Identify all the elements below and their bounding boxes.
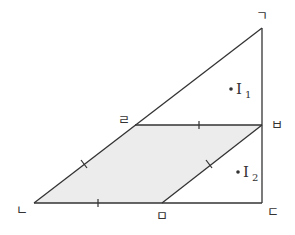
incenter-label-i2: I xyxy=(243,163,249,181)
incenter-sub-i1: 1 xyxy=(245,89,251,100)
geometry-diagram: ㄱ ㄴ ㄷ ㄹ ㅁ ㅂ I 1 I 2 xyxy=(0,0,295,235)
vertex-label-m: ㅁ xyxy=(156,208,168,223)
vertex-label-g: ㄱ xyxy=(256,8,268,23)
incenter-point-i2 xyxy=(236,170,240,174)
vertex-label-b: ㅂ xyxy=(271,117,283,132)
vertex-label-n: ㄴ xyxy=(16,202,28,217)
shaded-rhombus xyxy=(34,125,262,203)
vertex-label-r: ㄹ xyxy=(118,112,130,127)
incenter-label-i1: I xyxy=(236,80,242,98)
incenter-sub-i2: 2 xyxy=(252,172,258,183)
incenter-point-i1 xyxy=(229,87,233,91)
vertex-label-d: ㄷ xyxy=(267,204,279,219)
